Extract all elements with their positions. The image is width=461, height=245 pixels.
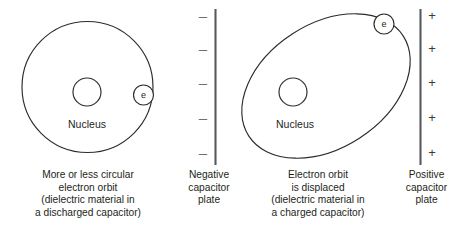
nucleus-label-left: Nucleus [68,118,106,130]
negative-charge-glyph: – [199,144,208,161]
physics-diagram: Nucleus e – – – – – Nucleus e + + + + [0,0,461,245]
positive-charge-glyph: + [428,110,436,125]
caption-line: is displaced [244,182,392,195]
caption-line: capacitor [392,182,461,195]
negative-charge-glyph: – [199,74,208,91]
electron-label-left: e [141,90,146,100]
positive-charge-glyph: + [428,41,436,56]
negative-charge-glyph: – [199,7,208,24]
left-atom-group: Nucleus e [22,22,154,153]
caption-discharged-orbit: More or less circular electron orbit (di… [0,169,176,219]
caption-line: a discharged capacitor) [0,207,176,220]
caption-line: a charged capacitor) [244,207,392,220]
nucleus-circle-left [73,78,101,106]
positive-plate-group: + + + + + [421,8,436,165]
caption-line: More or less circular [0,169,176,182]
caption-positive-plate: Positive capacitor plate [392,169,461,207]
caption-negative-plate: Negative capacitor plate [176,169,242,207]
caption-line: Electron orbit [244,169,392,182]
positive-charge-glyph: + [428,145,436,160]
caption-line: plate [176,194,242,207]
caption-line: (dielectric material in [244,194,392,207]
caption-line: Positive [392,169,461,182]
caption-charged-orbit: Electron orbit is displaced (dielectric … [244,169,392,219]
positive-charge-glyph: + [428,75,436,90]
nucleus-circle-right [279,78,307,106]
positive-charge-glyph: + [428,8,436,23]
electron-label-right: e [381,19,386,29]
caption-line: Negative [176,169,242,182]
caption-line: (dielectric material in [0,194,176,207]
caption-line: capacitor [176,182,242,195]
displaced-electron-orbit [215,0,437,188]
negative-plate-group: – – – – – [199,7,216,165]
caption-line: electron orbit [0,182,176,195]
nucleus-label-right: Nucleus [276,118,314,130]
negative-charge-glyph: – [199,109,208,126]
caption-line: plate [392,194,461,207]
negative-charge-glyph: – [199,40,208,57]
right-atom-group: Nucleus e [215,0,437,188]
